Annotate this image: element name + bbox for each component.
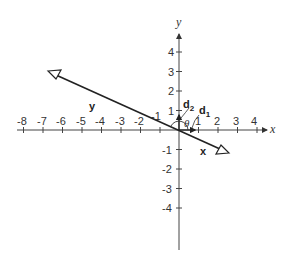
rotated-x-arrowhead bbox=[216, 145, 229, 154]
y-axis-label: y bbox=[175, 15, 182, 29]
rotated-axis-line bbox=[56, 75, 220, 149]
x-tick-label: -2 bbox=[134, 115, 144, 127]
y-tick-label: 1 bbox=[168, 105, 174, 117]
rotated-y-arrowhead bbox=[48, 70, 61, 79]
coordinate-diagram: -8 -7 -6 -5 -4 -3 -2 -1 1 2 3 4 4 3 2 1 … bbox=[0, 0, 289, 263]
x-tick-label: 1 bbox=[195, 115, 201, 127]
x-tick-label: -8 bbox=[17, 115, 27, 127]
x-tick-label: -7 bbox=[37, 115, 47, 127]
x-tick-label: -6 bbox=[56, 115, 66, 127]
x-axis-label: x bbox=[269, 122, 276, 136]
x-tick-label: 3 bbox=[233, 115, 239, 127]
y-tick-label: 2 bbox=[168, 85, 174, 97]
y-tick-label: 4 bbox=[168, 46, 174, 58]
y-tick-label: -4 bbox=[162, 202, 172, 214]
x-tick-label: -4 bbox=[95, 115, 105, 127]
d2-label: d2 bbox=[183, 98, 195, 113]
y-tick-label: -2 bbox=[162, 163, 172, 175]
y-tick-label: 3 bbox=[168, 66, 174, 78]
y-tick-label: -3 bbox=[162, 183, 172, 195]
rotated-y-label: y bbox=[89, 100, 96, 112]
x-tick-label: 4 bbox=[251, 115, 257, 127]
y-tick-label: -1 bbox=[162, 144, 172, 156]
theta-label: θ bbox=[184, 117, 190, 129]
rotated-x-label: x bbox=[200, 145, 207, 157]
x-tick-label: -3 bbox=[115, 115, 125, 127]
x-tick-label: -5 bbox=[76, 115, 86, 127]
x-tick-label: 2 bbox=[214, 115, 220, 127]
